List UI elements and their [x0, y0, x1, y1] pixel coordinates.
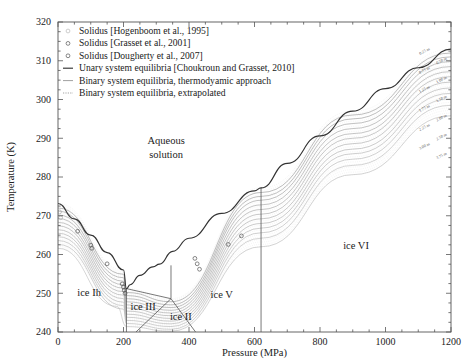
legend-label: Binary system equilibria, thermodyamic a… — [79, 75, 271, 86]
isopleth-label-9: 2.50 m — [435, 131, 448, 141]
legend-item-3: Unary system equilibria [Choukroun and G… — [63, 62, 295, 73]
legend-label: Binary system equilibria, extrapolated — [79, 87, 226, 98]
legend-label: Solidus [Grasset et al., 2001] — [79, 37, 190, 48]
x-tick-label: 400 — [182, 336, 197, 347]
phase-label-0: Aqueous — [147, 135, 184, 146]
x-tick-label: 0 — [56, 336, 61, 347]
y-tick-label: 320 — [36, 16, 51, 27]
isopleth-curve-2.5 — [58, 99, 451, 327]
y-tick-label: 240 — [36, 326, 51, 337]
x-tick-label: 600 — [247, 336, 262, 347]
extrapolated-iso — [58, 62, 451, 305]
y-tick-label: 310 — [36, 55, 51, 66]
y-tick-label: 290 — [36, 133, 51, 144]
data-point — [198, 267, 202, 271]
legend-marker-circle — [66, 54, 70, 58]
legend-item-2: Solidus [Dougherty et al., 2007] — [66, 50, 203, 61]
legend-item-5: Binary system equilibria, extrapolated — [63, 87, 226, 98]
x-tick-label: 800 — [313, 336, 328, 347]
legend-marker-circle — [66, 42, 70, 46]
legend-label: Unary system equilibria [Choukroun and G… — [79, 62, 295, 73]
y-tick-label: 280 — [36, 171, 51, 182]
isopleth-label-5: 1.50 m — [435, 93, 448, 103]
extrapolated-iso — [58, 84, 451, 316]
isopleth-curve-3 — [58, 105, 451, 329]
isopleth-curve-2.25 — [58, 93, 451, 324]
isopleth-curve-1 — [58, 67, 451, 311]
extrapolated-iso — [58, 65, 451, 306]
isopleth-label-11: 3.75 m — [435, 150, 448, 160]
x-tick-label: 200 — [116, 336, 131, 347]
extrapolated-iso — [58, 76, 451, 312]
y-tick-label: 250 — [36, 288, 51, 299]
phase-label-5: ice V — [211, 289, 234, 300]
extrapolated-iso — [58, 78, 451, 313]
legend-item-4: Binary system equilibria, thermodyamic a… — [63, 75, 271, 86]
extrapolated-iso — [58, 100, 451, 324]
data-point — [105, 262, 109, 266]
phase-diagram-figure: 0200400600800100012002402502602702802903… — [0, 0, 471, 361]
legend-marker-circle — [66, 29, 70, 33]
extrapolated-iso — [58, 94, 451, 320]
phase-label-4: ice II — [170, 311, 192, 322]
phase-label-3: ice III — [130, 301, 156, 312]
extrapolated-iso — [58, 81, 451, 314]
data-point — [59, 216, 63, 220]
extrapolated-iso — [58, 105, 451, 326]
phase-label-6: ice VI — [343, 240, 369, 251]
isopleth-label-0: 0.25 m — [418, 46, 431, 56]
legend: Solidus [Hogenboom et al., 1995]Solidus … — [63, 25, 295, 98]
data-point — [226, 243, 230, 247]
extrapolated-iso — [58, 113, 451, 330]
y-axis-title: Temperature (K) — [5, 141, 17, 212]
extrapolated-iso — [58, 116, 451, 331]
phase-label-2: ice Ih — [77, 287, 101, 298]
y-tick-label: 270 — [36, 210, 51, 221]
data-point — [193, 256, 197, 260]
isopleth-label-7: 2.00 m — [435, 112, 448, 122]
isopleth-label-10: 3.00 m — [418, 141, 431, 151]
y-tick-label: 260 — [36, 249, 51, 260]
legend-label: Solidus [Dougherty et al., 2007] — [79, 50, 203, 61]
isopleth-label-8: 2.25 m — [418, 122, 431, 132]
legend-label: Solidus [Hogenboom et al., 1995] — [79, 25, 209, 36]
extrapolated-iso — [58, 86, 451, 316]
data-point — [195, 262, 199, 266]
x-axis-title: Pressure (MPa) — [222, 347, 288, 359]
x-tick-label: 1200 — [441, 336, 461, 347]
isopleth-curve-3.75 — [58, 116, 451, 331]
isopleth-curve-2 — [58, 88, 451, 321]
y-tick-label: 300 — [36, 94, 51, 105]
isopleth-label-4: 1.25 m — [418, 84, 431, 94]
extrapolated-iso — [58, 73, 451, 310]
legend-item-1: Solidus [Grasset et al., 2001] — [66, 37, 190, 48]
phase-label-1: solution — [149, 149, 184, 160]
phase-diagram-svg: 0200400600800100012002402502602702802903… — [0, 0, 471, 361]
isopleth-curve-0.75 — [58, 62, 451, 308]
x-tick-label: 1000 — [376, 336, 396, 347]
legend-item-0: Solidus [Hogenboom et al., 1995] — [66, 25, 209, 36]
